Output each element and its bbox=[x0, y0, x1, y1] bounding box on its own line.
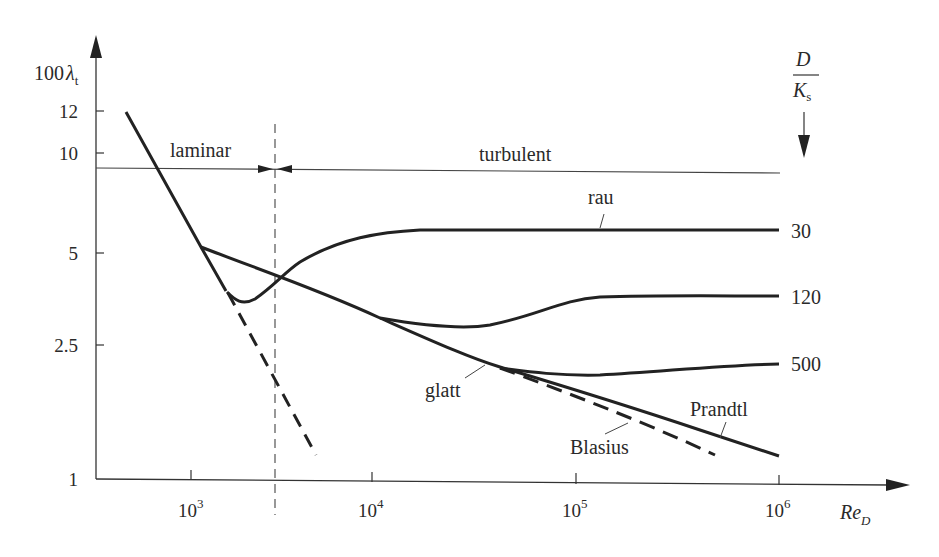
y-tick-12: 12 bbox=[59, 101, 78, 122]
x-tick-1e4: 104 bbox=[358, 496, 384, 521]
svg-text:D: D bbox=[795, 48, 811, 70]
param-label: D Ks bbox=[792, 48, 819, 158]
x-tick-1e3: 103 bbox=[178, 496, 204, 521]
param-arrow-icon bbox=[798, 135, 810, 158]
x-axis-label: ReD bbox=[839, 501, 871, 528]
x-axis bbox=[96, 470, 910, 491]
curve-ks-30 bbox=[227, 229, 779, 302]
friction-factor-chart: 12 10 5 2.5 1 100λt 103 104 105 106 ReD … bbox=[0, 0, 939, 557]
y-axis bbox=[90, 35, 104, 479]
laminar-label: laminar bbox=[170, 139, 231, 161]
y-axis-label: 100λt bbox=[34, 62, 79, 88]
y-tick-5: 5 bbox=[69, 243, 79, 264]
y-axis-arrow-icon bbox=[90, 35, 102, 58]
y-tick-2-5: 2.5 bbox=[54, 335, 78, 356]
x-axis-arrow-icon bbox=[886, 479, 910, 491]
turbulent-label: turbulent bbox=[479, 143, 552, 165]
prandtl-curve bbox=[201, 247, 779, 456]
curve-label-30: 30 bbox=[791, 220, 811, 242]
laminar-arrow-icon bbox=[258, 165, 273, 173]
svg-text:100λt: 100λt bbox=[34, 62, 79, 88]
rau-label: rau bbox=[588, 186, 614, 208]
curve-ks-500 bbox=[500, 364, 779, 375]
curve-label-120: 120 bbox=[791, 286, 821, 308]
y-tick-10: 10 bbox=[59, 143, 78, 164]
curve-ks-120 bbox=[380, 296, 779, 327]
blasius-label: Blasius bbox=[570, 436, 629, 458]
regime-line bbox=[96, 165, 780, 173]
x-tick-1e5: 105 bbox=[562, 496, 588, 521]
curve-label-500: 500 bbox=[791, 353, 821, 375]
y-tick-1: 1 bbox=[69, 469, 79, 490]
x-tick-1e6: 106 bbox=[765, 496, 791, 521]
laminar-extension-dashed bbox=[228, 293, 316, 455]
turbulent-arrow-icon bbox=[277, 165, 292, 173]
glatt-label: glatt bbox=[425, 379, 461, 402]
svg-text:Ks: Ks bbox=[792, 79, 811, 104]
prandtl-label: Prandtl bbox=[690, 398, 748, 420]
